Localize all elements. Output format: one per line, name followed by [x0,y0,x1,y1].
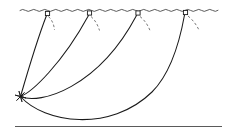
buoy-square-3 [136,11,140,15]
buoy-marker-2 [87,11,91,15]
mooring-diagram [0,0,228,134]
buoy-marker-1 [45,11,49,15]
buoy-marker-3 [136,11,140,15]
buoy-marker-4 [183,10,187,14]
buoy-square-4 [183,10,187,14]
mooring-diagram-canvas [0,0,228,134]
buoy-square-1 [45,11,49,15]
diagram-background [0,0,228,134]
buoy-square-2 [87,11,91,15]
